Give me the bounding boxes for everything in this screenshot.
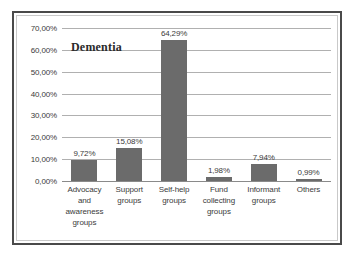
axis-baseline: 0,00% — [62, 181, 331, 182]
bar-value-label: 9,72% — [73, 149, 95, 158]
bar[interactable]: 0,99% — [296, 179, 322, 181]
bar-value-label: 7,94% — [253, 153, 275, 162]
bar-slot: 1,98% — [196, 28, 241, 181]
y-axis-tick-label: 10,00% — [31, 155, 57, 164]
bar-slot: 15,08% — [107, 28, 152, 181]
y-axis-tick-label: 40,00% — [31, 89, 57, 98]
bar-value-label: 1,98% — [208, 166, 230, 175]
bar[interactable]: 1,98% — [206, 177, 232, 181]
x-axis-category-label: Others — [286, 184, 331, 228]
y-axis-tick-label: 30,00% — [31, 111, 57, 120]
bar-value-label: 0,99% — [298, 168, 320, 177]
bar-slot: 0,99% — [286, 28, 331, 181]
bar-slot: 64,29% — [152, 28, 197, 181]
x-axis-category-labels: Advocacy and awareness groupsSupport gro… — [62, 184, 331, 228]
bar-series: 9,72%15,08%64,29%1,98%7,94%0,99% — [62, 28, 331, 181]
y-axis-tick-label: 60,00% — [31, 45, 57, 54]
x-axis-category-label: Informant groups — [241, 184, 286, 228]
bar[interactable]: 9,72% — [71, 160, 97, 181]
x-axis-category-label: Fund collecting groups — [196, 184, 241, 228]
plot-area: 0,00%10,00%20,00%30,00%40,00%50,00%60,00… — [62, 28, 331, 181]
x-axis-category-label: Self-help groups — [152, 184, 197, 228]
y-axis-tick-label: 0,00% — [35, 177, 57, 186]
chart-frame-inner-border: 0,00%10,00%20,00%30,00%40,00%50,00%60,00… — [16, 15, 338, 241]
y-axis-tick-label: 70,00% — [31, 24, 57, 33]
bar-slot: 7,94% — [241, 28, 286, 181]
bar-value-label: 64,29% — [161, 29, 187, 38]
bar[interactable]: 7,94% — [251, 164, 277, 181]
bar-value-label: 15,08% — [116, 137, 142, 146]
y-axis-tick-label: 50,00% — [31, 67, 57, 76]
chart-frame: 0,00%10,00%20,00%30,00%40,00%50,00%60,00… — [12, 11, 342, 245]
bar-slot: 9,72% — [62, 28, 107, 181]
bar[interactable]: 64,29% — [161, 40, 187, 181]
x-axis-category-label: Advocacy and awareness groups — [62, 184, 107, 228]
x-axis-category-label: Support groups — [107, 184, 152, 228]
bar[interactable]: 15,08% — [116, 148, 142, 181]
y-axis-tick-label: 20,00% — [31, 133, 57, 142]
